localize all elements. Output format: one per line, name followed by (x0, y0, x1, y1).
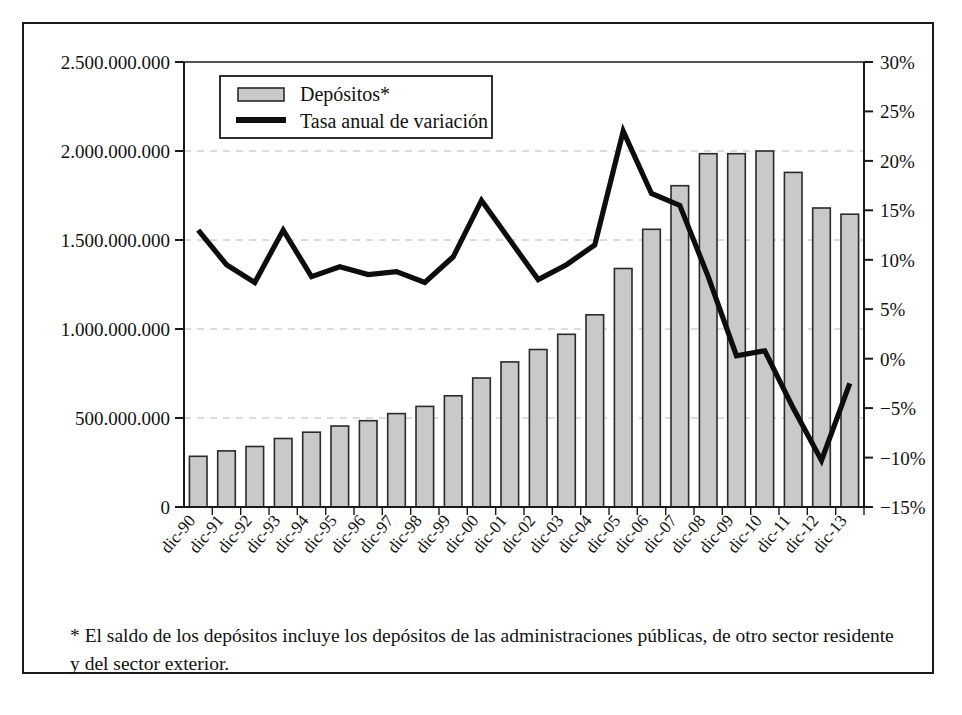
right-axis-tick-label: −15% (880, 497, 926, 518)
bar-deposits (388, 414, 406, 507)
bar-deposits (728, 154, 746, 507)
bar-deposits (501, 362, 519, 507)
bar-deposits (473, 378, 491, 507)
left-axis-tick-label: 500.000.000 (75, 408, 170, 429)
left-axis-tick-label: 0 (161, 497, 171, 518)
bar-deposits (756, 151, 774, 507)
footnote-text: * El saldo de los depósitos incluye los … (70, 622, 900, 679)
deposits-chart: 0500.000.0001.000.000.0001.500.000.0002.… (24, 24, 936, 676)
left-axis-tick-label: 2.000.000.000 (61, 141, 170, 162)
left-axis-tick-label: 2.500.000.000 (61, 52, 170, 73)
bar-deposits (359, 421, 377, 507)
bar-deposits (841, 214, 859, 507)
bar-deposits (218, 451, 236, 507)
right-axis-tick-label: 15% (880, 200, 915, 221)
right-axis-tick-label: −10% (880, 448, 926, 469)
left-axis-tick-label: 1.000.000.000 (61, 319, 170, 340)
chart-frame: 0500.000.0001.000.000.0001.500.000.0002.… (22, 22, 934, 674)
bar-deposits (529, 350, 547, 508)
line-annual-variation-rate (198, 131, 850, 460)
chart-canvas: 0500.000.0001.000.000.0001.500.000.0002.… (24, 24, 936, 676)
bar-deposits (303, 432, 321, 507)
right-axis-tick-label: 25% (880, 101, 915, 122)
bar-deposits (586, 315, 604, 507)
bar-deposits (614, 269, 632, 508)
right-axis-tick-label: 0% (880, 349, 906, 370)
legend-label-rate: Tasa anual de variación (300, 110, 488, 132)
right-axis-tick-label: 5% (880, 299, 906, 320)
legend-label-deposits: Depósitos* (300, 83, 390, 106)
right-axis-tick-label: −5% (880, 398, 916, 419)
bar-deposits (643, 229, 661, 507)
bar-deposits (671, 186, 689, 507)
legend-swatch-deposits (238, 88, 284, 101)
left-axis-tick-label: 1.500.000.000 (61, 230, 170, 251)
bar-deposits (416, 406, 434, 507)
right-axis-tick-label: 10% (880, 250, 915, 271)
bar-deposits (331, 426, 349, 507)
bar-deposits (558, 334, 576, 507)
bar-deposits (274, 439, 292, 508)
bar-deposits (246, 447, 264, 508)
right-axis-tick-label: 30% (880, 52, 915, 73)
bar-deposits (699, 154, 717, 507)
right-axis-tick-label: 20% (880, 151, 915, 172)
bar-deposits (444, 396, 462, 507)
bar-deposits (189, 456, 207, 507)
bar-deposits (784, 172, 802, 507)
